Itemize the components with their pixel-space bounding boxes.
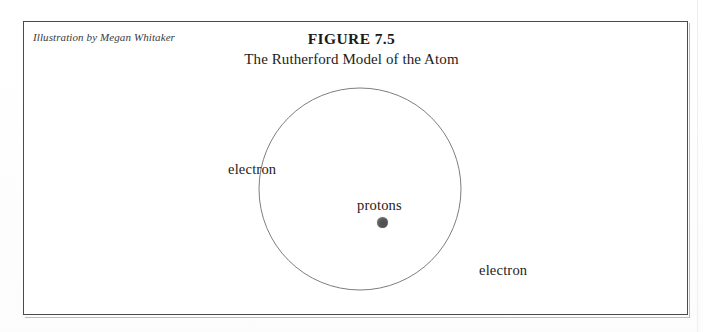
atom-diagram: protons electron electron	[23, 21, 688, 315]
electron-label-upper-left: electron	[228, 161, 276, 178]
scan-edge-artifact	[697, 0, 698, 332]
protons-label: protons	[357, 197, 402, 214]
nucleus-sphere-icon	[377, 217, 388, 228]
electron-orbit-circle	[259, 88, 461, 290]
electron-label-lower-right: electron	[479, 262, 527, 279]
electron-orbit-svg	[23, 21, 688, 315]
figure-page: Illustration by Megan Whitaker FIGURE 7.…	[0, 0, 703, 332]
frame-shadow-bottom	[25, 317, 690, 318]
